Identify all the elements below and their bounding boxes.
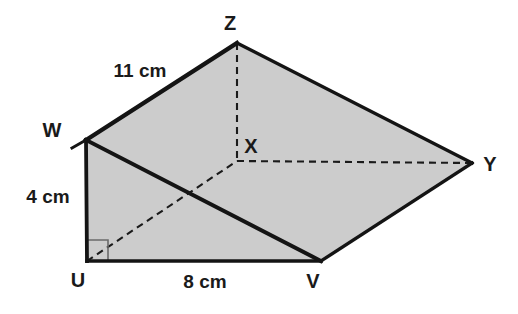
vertex-label-v: V <box>306 270 320 292</box>
edge-u-w <box>86 140 87 261</box>
edge-w-notch <box>72 140 86 148</box>
vertex-label-z: Z <box>224 12 236 34</box>
dimension-label-wz: 11 cm <box>114 60 167 81</box>
dimension-label-uv: 8 cm <box>183 271 226 292</box>
prism-diagram-svg: Z W X Y U V 11 cm 4 cm 8 cm <box>0 0 518 314</box>
vertex-label-w: W <box>43 119 62 141</box>
vertex-label-x: X <box>244 135 258 157</box>
vertex-label-y: Y <box>483 153 497 175</box>
dimension-label-wu: 4 cm <box>26 186 69 207</box>
geometry-figure: Z W X Y U V 11 cm 4 cm 8 cm <box>0 0 518 314</box>
vertex-label-u: U <box>71 269 85 291</box>
